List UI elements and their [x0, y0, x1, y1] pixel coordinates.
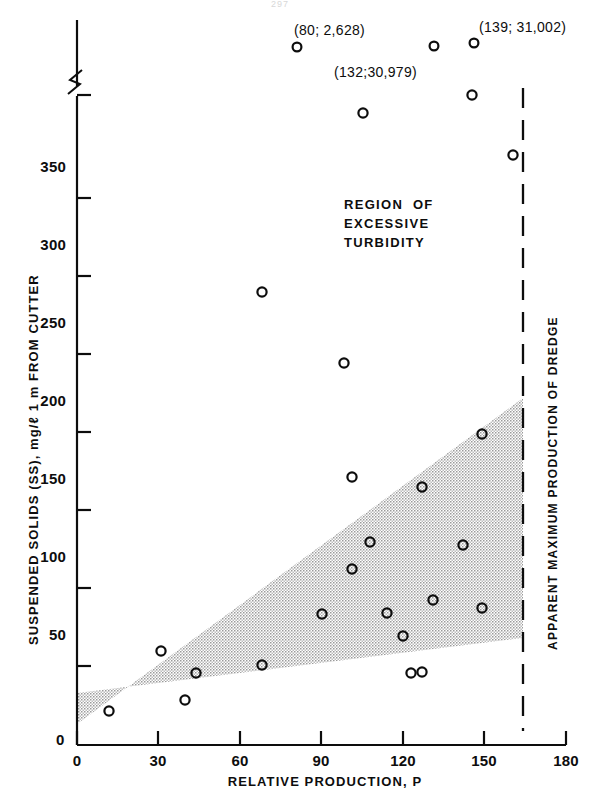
- annotation-region-of-excessive-turbidity: REGION OFEXCESSIVETURBIDITY: [344, 196, 434, 253]
- axis-break-symbol: [68, 70, 82, 94]
- data-point-offscale: [430, 42, 439, 51]
- data-point: [339, 358, 348, 367]
- x-axis-title: RELATIVE PRODUCTION, P: [180, 774, 470, 789]
- data-point: [104, 706, 113, 715]
- shaded-band: [77, 398, 523, 724]
- figure-container: 297: [0, 0, 597, 797]
- offscale-point-label: (80; 2,628): [294, 22, 365, 38]
- offscale-data-points: [293, 39, 518, 160]
- y-tick-label-zero: 0: [56, 731, 65, 748]
- data-point: [347, 472, 356, 481]
- data-point: [180, 695, 189, 704]
- annotation-line: REGION OF: [344, 197, 434, 212]
- x-tick-label: 120: [383, 752, 423, 769]
- data-point-offscale: [470, 39, 479, 48]
- x-tick-label: 90: [301, 752, 341, 769]
- x-ticks: [77, 731, 566, 745]
- data-point: [508, 150, 517, 159]
- y-tick-label: 350: [8, 158, 66, 175]
- offscale-point-label: (139; 31,002): [479, 19, 566, 35]
- y-axis-title: SUSPENDED SOLIDS (SS), mg/ℓ 1 m FROM CUT…: [26, 274, 41, 645]
- x-tick-label: 180: [546, 752, 586, 769]
- chart-canvas: [0, 0, 597, 797]
- x-tick-label: 30: [138, 752, 178, 769]
- x-tick-label: 60: [220, 752, 260, 769]
- y-tick-label: 300: [8, 236, 66, 253]
- y-ticks: [77, 198, 91, 666]
- data-point: [358, 108, 367, 117]
- x-tick-label: 0: [57, 752, 97, 769]
- data-point: [257, 287, 266, 296]
- x-tick-label: 150: [464, 752, 504, 769]
- annotation-line: EXCESSIVE: [344, 216, 429, 231]
- data-point-offscale: [293, 43, 302, 52]
- data-point: [417, 667, 426, 676]
- data-point: [467, 90, 476, 99]
- annotation-line: TURBIDITY: [344, 235, 425, 250]
- data-point: [156, 646, 165, 655]
- data-point: [406, 668, 415, 677]
- annotation-apparent-maximum-production: APPARENT MAXIMUM PRODUCTION OF DREDGE: [546, 316, 560, 650]
- offscale-point-label: (132;30,979): [334, 64, 417, 80]
